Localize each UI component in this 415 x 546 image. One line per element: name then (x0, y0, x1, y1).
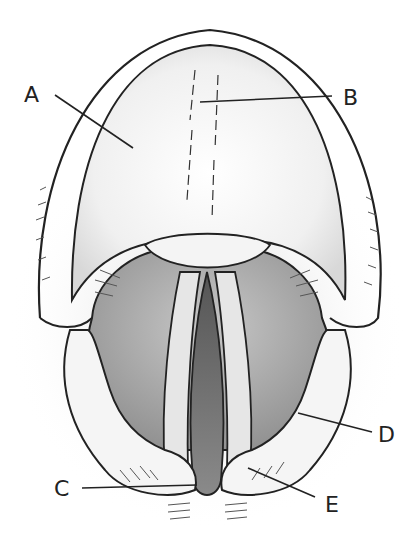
label-d: D (378, 424, 395, 446)
label-b: B (343, 87, 358, 109)
larynx-illustration (0, 0, 415, 546)
label-c: C (54, 478, 69, 500)
label-e: E (325, 494, 339, 516)
label-a: A (24, 84, 39, 106)
